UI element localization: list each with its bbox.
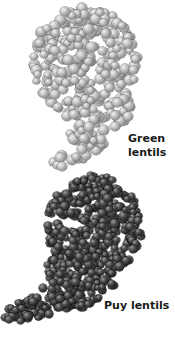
lentil: [64, 292, 72, 299]
green-lentils-label: Green lentils: [128, 132, 166, 160]
lentil: [74, 262, 81, 268]
lentil: [83, 232, 91, 239]
lentil: [108, 270, 115, 276]
lentil: [62, 190, 71, 198]
lentil: [121, 245, 128, 251]
lentil: [52, 229, 60, 236]
lentil: [65, 250, 72, 257]
lentil: [129, 245, 137, 252]
lentil: [46, 271, 53, 277]
lentil: [110, 219, 119, 227]
lentil: [135, 229, 142, 235]
lentil: [49, 238, 56, 244]
lentil: [60, 227, 69, 235]
lentil: [122, 207, 128, 212]
lentil: [90, 239, 98, 246]
lentil: [86, 188, 92, 194]
lentil: [75, 253, 83, 260]
lentil: [119, 212, 127, 220]
lentil: [88, 269, 95, 275]
puy-lentils-label: Puy lentils: [104, 299, 169, 313]
lentil: [111, 245, 118, 251]
lentil: [44, 222, 51, 228]
lentil: [113, 255, 121, 262]
lentil: [17, 318, 24, 324]
lentil: [108, 280, 115, 287]
lentil: [18, 305, 25, 311]
puy-lentils-pile: [0, 0, 175, 344]
lentil: [66, 261, 73, 267]
lentil: [72, 231, 79, 237]
lentil: [80, 217, 88, 224]
lentil: [91, 219, 98, 225]
lentil: [5, 316, 13, 323]
lentil: [71, 278, 80, 286]
lentil: [58, 254, 65, 260]
lentil: [88, 175, 96, 182]
lentil: [85, 282, 92, 289]
lentil: [115, 262, 124, 270]
lentil: [49, 279, 57, 286]
lentil: [88, 290, 95, 296]
lentil: [67, 209, 75, 216]
lentil: [113, 188, 120, 195]
lentil: [23, 312, 32, 320]
green-lentils-label-line2: lentils: [128, 146, 166, 160]
lentil: [45, 310, 54, 318]
lentil: [134, 217, 142, 224]
lentil: [74, 178, 81, 184]
lentil: [56, 271, 64, 278]
lentil: [56, 295, 63, 302]
green-lentils-label-line1: Green: [128, 132, 166, 146]
lentil: [99, 223, 106, 229]
lentil: [111, 227, 117, 233]
lentil: [99, 284, 105, 289]
lentil: [97, 269, 103, 275]
lentil: [130, 209, 136, 214]
lentil: [39, 284, 48, 292]
lentil: [100, 277, 108, 284]
lentil: [96, 295, 102, 301]
lentil: [29, 298, 36, 304]
lentil: [75, 291, 84, 299]
lentil: [122, 257, 129, 264]
lentil: [54, 243, 62, 250]
lentil: [103, 194, 111, 202]
lentil: [113, 237, 120, 244]
lentil: [50, 256, 58, 263]
lentil: [126, 223, 133, 230]
